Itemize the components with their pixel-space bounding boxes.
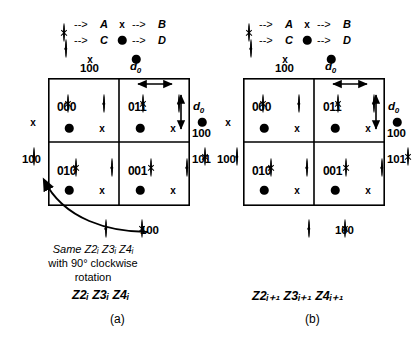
- panel-a-caption: (a): [110, 312, 125, 326]
- panel-b-title: Z2ᵢ₊₁ Z3ᵢ₊₁ Z4ᵢ₊₁: [252, 288, 343, 303]
- x-mark-icon: x: [303, 20, 312, 29]
- legend-arrow: -->: [74, 18, 88, 30]
- outside-label-bottom-right: 100: [335, 224, 354, 236]
- outside-symbol-x-mark: x: [29, 118, 38, 127]
- legend-arrow: -->: [317, 34, 331, 46]
- outside-label-right-upper: 100: [387, 127, 406, 139]
- outside-symbol-filled-circle: [393, 118, 402, 127]
- dotted-circle-icon: [65, 39, 67, 58]
- d0-horizontal-label: d0: [130, 60, 141, 75]
- rotation-note: Same Z2ᵢ Z3ᵢ Z4ᵢ with 90° clockwise rota…: [18, 242, 168, 284]
- legend-label-a: A: [100, 18, 108, 30]
- outside-label-left-lower: 100: [22, 153, 41, 165]
- filled-circle-icon: [118, 36, 127, 45]
- d0-arrows: [243, 78, 385, 206]
- panel-a-title: Z2ᵢ Z3ᵢ Z4ᵢ: [72, 288, 129, 302]
- rotation-note-line2: with 90° clockwise: [18, 256, 168, 270]
- outside-label-right-lower: 101: [387, 153, 406, 165]
- outside-symbol-dotted-circle: [236, 147, 238, 166]
- outside-label-top-left: 100: [275, 62, 294, 74]
- d0-vertical-label: d0: [388, 100, 399, 115]
- rotation-note-line3: rotation: [18, 270, 168, 284]
- outside-label-top-left: 100: [80, 62, 99, 74]
- rotation-callout-arrow: [30, 170, 160, 240]
- legend-arrow: -->: [132, 18, 146, 30]
- outside-label-right-lower: 101: [192, 153, 211, 165]
- rotation-note-line1: Same Z2ᵢ Z3ᵢ Z4ᵢ: [18, 242, 168, 256]
- d0-vertical-label: d0: [193, 100, 204, 115]
- outside-label-right-upper: 100: [192, 127, 211, 139]
- legend-arrow: -->: [259, 34, 273, 46]
- legend-label-b: B: [158, 18, 166, 30]
- outside-label-left-lower: 100: [217, 153, 236, 165]
- dotted-circle-icon: [250, 39, 252, 58]
- outside-symbol-x-mark: x: [224, 118, 233, 127]
- legend-arrow: -->: [259, 18, 273, 30]
- panel-b-caption: (b): [305, 312, 320, 326]
- outside-symbol-dotted-circle: [308, 219, 310, 238]
- legend-arrow: -->: [317, 18, 331, 30]
- legend-arrow: -->: [74, 34, 88, 46]
- outside-symbol-crossed-circle: [407, 147, 409, 166]
- x-mark-icon: x: [118, 20, 127, 29]
- legend-label-b: B: [343, 18, 351, 30]
- d0-horizontal-label: d0: [325, 60, 336, 75]
- outside-symbol-filled-circle: [198, 118, 207, 127]
- legend-panel-b: --> A x --> B --> C --> D: [243, 18, 247, 36]
- panel-b-grid: 000 x 011 x 010 x 001 x: [243, 78, 385, 206]
- legend-label-d: D: [158, 34, 166, 46]
- legend-panel-a: --> A x --> B --> C --> D: [58, 18, 62, 36]
- legend-label-c: C: [100, 34, 108, 46]
- filled-circle-icon: [303, 36, 312, 45]
- legend-label-d: D: [343, 34, 351, 46]
- legend-label-c: C: [285, 34, 293, 46]
- legend-arrow: -->: [132, 34, 146, 46]
- legend-label-a: A: [285, 18, 293, 30]
